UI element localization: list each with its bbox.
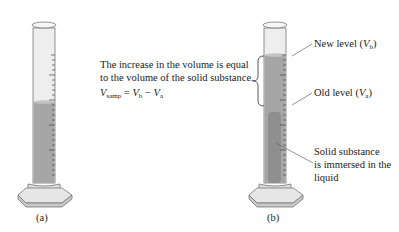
label-new-level: New level (Vb)	[314, 37, 376, 54]
volume-equation: Vsamp = Vb − Va	[100, 86, 163, 103]
solid-substance	[268, 112, 281, 183]
leader-new-level	[292, 44, 312, 56]
caption-a: (a)	[36, 211, 48, 224]
graduated-cylinder-b	[249, 22, 303, 207]
explanation-line-1: The increase in the volume is equal	[100, 58, 249, 71]
diagram-graphics	[0, 0, 399, 232]
graduated-cylinder-a	[18, 22, 72, 207]
label-solid-line-1: Solid substance	[314, 145, 380, 158]
caption-b: (b)	[267, 211, 279, 224]
explanation-line-2: to the volume of the solid substance.	[100, 71, 254, 84]
brace	[253, 56, 264, 106]
label-solid-line-3: liquid	[314, 171, 339, 184]
label-solid-line-2: is immersed in the	[314, 158, 391, 171]
label-old-level: Old level (Va)	[314, 86, 372, 103]
leader-old-level	[292, 93, 312, 105]
